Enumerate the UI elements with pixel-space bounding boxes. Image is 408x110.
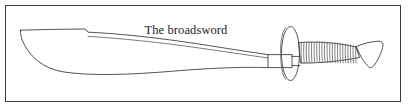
guard-disc xyxy=(282,27,300,81)
figure-caption: The broadsword xyxy=(136,23,236,37)
blade-ricasso xyxy=(268,55,292,68)
figure-page: The broadsword xyxy=(0,0,408,110)
broadsword-illustration xyxy=(0,0,408,110)
blade-fuller-line xyxy=(88,36,268,58)
pommel xyxy=(356,41,383,67)
blade-notch-line xyxy=(85,29,88,32)
grip-wrap-lines xyxy=(301,42,356,63)
